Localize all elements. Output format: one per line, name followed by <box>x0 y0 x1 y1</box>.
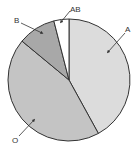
pie-slices <box>8 19 130 141</box>
label-a: A <box>125 25 131 34</box>
label-o: O <box>12 136 18 145</box>
pie-chart: A B AB O <box>0 0 137 151</box>
label-ab: AB <box>70 5 81 14</box>
label-b: B <box>14 16 19 25</box>
